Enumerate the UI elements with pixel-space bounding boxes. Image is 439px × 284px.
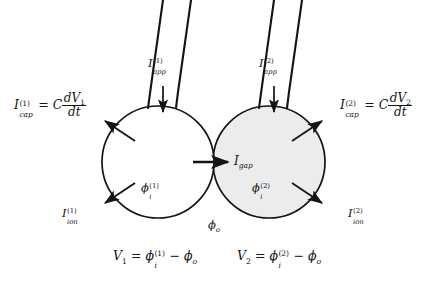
capacitive-current-2-label: I(2)cap= CdV2dt: [340, 93, 412, 119]
pipette-1-right-wall: [176, 0, 191, 108]
capacitive-current-1-label: I(1)cap= CdV1dt: [14, 93, 86, 119]
pipette-2-right-wall: [287, 0, 302, 108]
applied-current-2-label: I(2)app: [259, 58, 264, 70]
figure-canvas: I(1)cap= CdV1dt I(2)cap= CdV2dt I(1)app …: [0, 0, 439, 284]
ionic-current-2-label: I(2)ion: [348, 208, 353, 220]
pipette-1-left-wall: [148, 0, 163, 108]
pipette-2-left-wall: [259, 0, 274, 108]
gap-current-label: Igap: [234, 155, 253, 167]
applied-current-1-label: I(1)app: [148, 58, 153, 70]
cell-2-membrane: [213, 106, 325, 218]
cell-1-interior-potential-label: ϕ(1)i: [141, 183, 149, 195]
cell-2-voltage-equation: V2 = ϕ(2)i− ϕo: [237, 250, 321, 263]
cell-2-interior-potential-label: ϕ(2)i: [252, 183, 260, 195]
ionic-current-1-label: I(1)ion: [62, 208, 67, 220]
cell-1-voltage-equation: V1 = ϕ(1)i− ϕo: [113, 250, 197, 263]
extracellular-potential-label: ϕo: [208, 220, 220, 232]
diagram-svg: [0, 0, 439, 284]
